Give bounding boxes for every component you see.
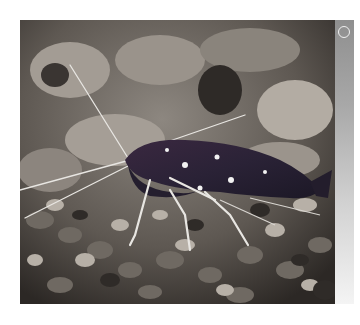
side-scroll-strip[interactable] (335, 20, 354, 304)
circle-icon[interactable] (338, 26, 350, 38)
shrimp-photo (20, 20, 335, 304)
